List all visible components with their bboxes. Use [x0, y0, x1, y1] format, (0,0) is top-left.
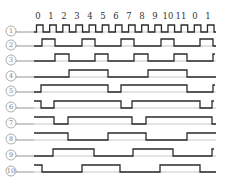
clock-tick-label: 0	[35, 11, 40, 21]
clock-tick-label: 6	[113, 11, 118, 21]
clock-tick-label: 7	[126, 11, 131, 21]
signal-waveform	[34, 117, 216, 124]
signal-waveform	[34, 39, 216, 46]
clock-tick-label: 11	[176, 11, 187, 21]
row-label: 8	[9, 135, 13, 143]
row-label: 6	[9, 103, 13, 111]
clock-tick-labels: 0123456789101101	[35, 11, 210, 21]
signal-waveform	[34, 54, 215, 61]
clock-tick-label: 2	[61, 11, 66, 21]
signal-waveform	[34, 149, 214, 156]
signal-row-9: 9	[6, 149, 216, 160]
clock-tick-label: 1	[205, 11, 210, 21]
clock-tick-label: 8	[139, 11, 144, 21]
timing-diagram: 0123456789101101 12345678910	[0, 0, 231, 183]
signal-row-5: 5	[6, 85, 216, 96]
signal-waveform	[34, 85, 215, 92]
signal-row-4: 4	[6, 70, 216, 81]
signal-waveform	[34, 165, 216, 172]
signal-waveform	[34, 101, 214, 108]
clock-tick-label: 4	[87, 11, 92, 21]
signal-row-1: 1	[6, 25, 216, 36]
clock-tick-label: 1	[48, 11, 53, 21]
row-label: 10	[7, 167, 15, 175]
clock-tick-label: 5	[100, 11, 105, 21]
clock-waveform	[34, 25, 216, 32]
row-label: 5	[9, 87, 13, 95]
clock-tick-label: 9	[152, 11, 157, 21]
signal-waveform	[34, 70, 216, 77]
clock-tick-label: 3	[74, 11, 79, 21]
row-label: 7	[9, 119, 13, 127]
signal-row-8: 8	[6, 133, 216, 144]
signal-row-3: 3	[6, 54, 216, 65]
signal-row-2: 2	[6, 39, 216, 50]
row-label: 3	[9, 56, 13, 64]
row-label: 1	[9, 27, 13, 35]
signal-rows: 12345678910	[6, 25, 216, 176]
signal-row-6: 6	[6, 101, 216, 112]
row-label: 4	[9, 72, 13, 80]
signal-row-10: 10	[6, 165, 216, 176]
signal-waveform	[34, 133, 216, 140]
signal-row-7: 7	[6, 117, 216, 128]
clock-tick-label: 10	[163, 11, 174, 21]
row-label: 2	[9, 41, 13, 49]
row-label: 9	[9, 151, 13, 159]
clock-tick-label: 0	[192, 11, 197, 21]
